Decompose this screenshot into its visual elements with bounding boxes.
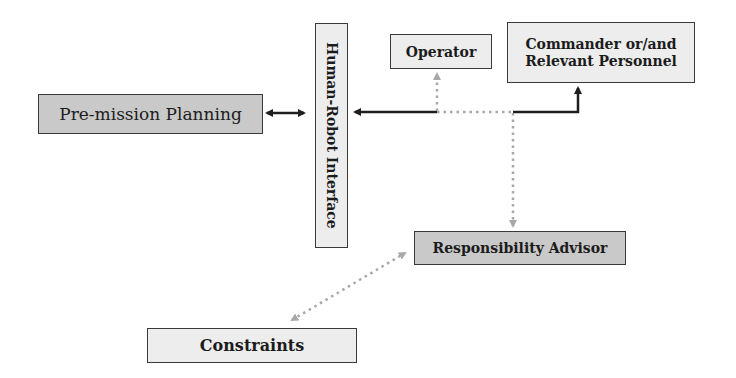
responsibility-advisor-label: Responsibility Advisor [433,240,608,256]
commander-arrow [513,88,578,112]
operator-node: Operator [390,34,492,69]
constraints-label: Constraints [200,336,304,355]
human-robot-interface-node: Human-Robot Interface [315,23,348,248]
constraints-advisor-dotted-arrow [292,253,405,320]
premission-planning-node: Pre-mission Planning [38,94,263,134]
responsibility-advisor-node: Responsibility Advisor [414,231,626,265]
premission-planning-label: Pre-mission Planning [59,104,242,124]
commander-node: Commander or/and Relevant Personnel [507,22,695,83]
commander-label-line2: Relevant Personnel [525,53,677,70]
constraints-node: Constraints [147,328,357,363]
human-robot-interface-label: Human-Robot Interface [324,42,340,229]
commander-label-line1: Commander or/and [525,36,676,53]
operator-label: Operator [406,44,477,60]
